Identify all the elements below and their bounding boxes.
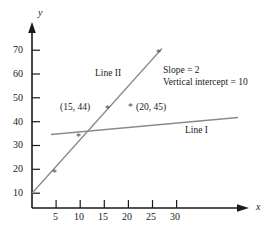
data-point-marker: * <box>156 48 161 58</box>
x-axis-ticks <box>56 200 177 208</box>
plot-canvas <box>0 0 273 235</box>
y-tick-label-30: 30 <box>13 140 23 150</box>
y-tick-label-10: 10 <box>13 188 23 198</box>
x-tick-label-25: 25 <box>146 212 156 222</box>
point-label-15-44: (15, 44) <box>60 103 90 113</box>
x-tick-label-15: 15 <box>98 212 108 222</box>
x-tick-label-10: 10 <box>74 212 84 222</box>
x-tick-label-5: 5 <box>53 212 58 222</box>
y-tick-label-40: 40 <box>13 117 23 127</box>
x-tick-label-30: 30 <box>170 212 180 222</box>
data-point-marker: * <box>128 102 133 112</box>
y-axis-label: y <box>38 8 42 18</box>
point-label-20-45: (20, 45) <box>136 103 166 113</box>
y-tick-label-20: 20 <box>13 164 23 174</box>
line-two-label: Line II <box>95 69 121 79</box>
y-tick-label-50: 50 <box>13 93 23 103</box>
data-point-marker: * <box>52 168 57 178</box>
x-axis <box>32 204 249 211</box>
y-tick-label-60: 60 <box>13 69 23 79</box>
scatter-plot-figure: y x 70 60 50 40 30 20 10 5 10 15 20 25 3… <box>0 0 273 235</box>
y-axis-ticks <box>32 50 40 193</box>
x-axis-label: x <box>256 202 260 212</box>
y-tick-label-70: 70 <box>13 45 23 55</box>
x-tick-label-20: 20 <box>122 212 132 222</box>
line-one-label: Line I <box>185 126 208 136</box>
slope-annotation: Slope = 2 <box>163 66 200 76</box>
intercept-annotation: Vertical intercept = 10 <box>163 78 248 88</box>
data-point-marker: * <box>105 104 110 114</box>
data-point-marker: * <box>76 132 81 142</box>
